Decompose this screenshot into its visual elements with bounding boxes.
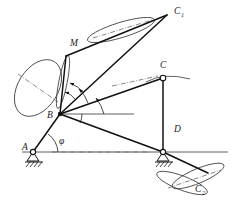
link-b-c xyxy=(60,78,163,114)
labels-group: A B C D M C 1 C 2 φ xyxy=(21,6,205,196)
linkage-group xyxy=(33,15,208,173)
label-m: M xyxy=(69,38,79,48)
label-c: C xyxy=(160,60,167,70)
label-c1: C 1 xyxy=(174,6,184,18)
angle-phi-group xyxy=(48,134,58,152)
kinematic-diagram-figure: A B C D M C 1 C 2 φ xyxy=(0,0,232,203)
link-b-c1 xyxy=(60,15,167,114)
kinematic-diagram-canvas: A B C D M C 1 C 2 φ xyxy=(0,0,232,203)
angle-arc-phi-at-a xyxy=(48,134,58,152)
axis-dashdot-b-c xyxy=(112,76,158,86)
reference-lines-group xyxy=(22,76,228,152)
link-b-d xyxy=(60,114,163,152)
label-a: A xyxy=(21,142,28,152)
label-c2-base: C xyxy=(195,184,202,194)
joint-b xyxy=(58,112,62,116)
label-d: D xyxy=(173,124,181,134)
label-c1-sub: 1 xyxy=(181,11,184,18)
angle-arc-4-at-b xyxy=(65,92,75,99)
joint-c xyxy=(160,75,166,81)
link-m-c1 xyxy=(66,15,167,56)
joint-d xyxy=(160,149,165,154)
label-b: B xyxy=(47,110,53,120)
ellipse-m-left-axis xyxy=(18,74,58,102)
hatching-a xyxy=(26,162,42,167)
label-angle-phi: φ xyxy=(59,136,64,146)
label-c1-base: C xyxy=(174,6,181,16)
joint-a xyxy=(30,149,35,154)
coupler-curve-group xyxy=(5,12,227,199)
ellipse-c1-upper xyxy=(85,12,156,47)
hatching-d xyxy=(156,162,172,167)
label-c2-sub: 2 xyxy=(202,189,205,196)
